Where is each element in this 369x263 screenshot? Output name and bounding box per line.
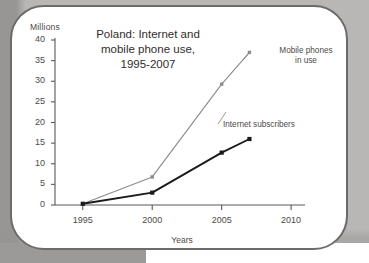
y-tick-label: 10 <box>23 158 45 168</box>
series-marker <box>220 82 223 85</box>
y-tick-label: 40 <box>23 34 45 44</box>
series-marker <box>247 137 251 141</box>
y-tick-label: 20 <box>23 117 45 127</box>
series-marker <box>81 202 85 206</box>
chart-axes <box>51 38 305 210</box>
x-tick-label: 2010 <box>271 215 311 225</box>
internet-label-connector <box>218 112 226 124</box>
chart-plot-area: Millions Poland: Internet and mobile pho… <box>0 0 369 263</box>
y-tick-label: 15 <box>23 137 45 147</box>
series-marker <box>150 191 154 195</box>
y-tick-label: 25 <box>23 96 45 106</box>
series-marker <box>151 175 154 178</box>
y-tick-label: 30 <box>23 75 45 85</box>
figure-screenshot: Millions Poland: Internet and mobile pho… <box>0 0 369 263</box>
chart-vector-layer <box>0 0 369 263</box>
y-tick-label: 0 <box>23 199 45 209</box>
y-tick-label: 5 <box>23 178 45 188</box>
mobile-label-connector <box>243 52 250 60</box>
series-line <box>83 52 250 203</box>
x-tick-label: 2000 <box>132 215 172 225</box>
y-tick-label: 35 <box>23 55 45 65</box>
chart-series <box>81 51 252 206</box>
x-tick-label: 1995 <box>63 215 103 225</box>
series-marker <box>220 151 224 155</box>
x-tick-label: 2005 <box>202 215 242 225</box>
